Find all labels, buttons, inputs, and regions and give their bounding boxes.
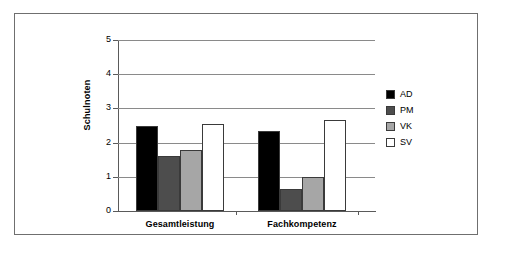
legend-label-sv: SV	[400, 137, 412, 147]
x-tick-mark-1	[236, 211, 237, 215]
y-tick-label-2: 2	[97, 138, 111, 147]
chart-legend: ADPMVKSV	[386, 86, 414, 150]
x-axis-label-1: Gesamtleistung	[120, 218, 240, 230]
gridline-y-4	[118, 74, 375, 75]
legend-item-vk: VK	[386, 118, 414, 134]
legend-item-ad: AD	[386, 86, 414, 102]
bar-vk-2	[302, 177, 324, 211]
legend-item-pm: PM	[386, 102, 414, 118]
legend-swatch-sv	[386, 138, 395, 147]
bar-ad-1	[136, 126, 158, 211]
chart-figure: Schulnoten 012345 ADPMVKSV Gesamtleistun…	[0, 0, 511, 261]
y-tick-label-5: 5	[97, 35, 111, 44]
y-tick-mark-5	[113, 40, 118, 41]
y-tick-mark-0	[113, 211, 118, 212]
bar-pm-2	[280, 189, 302, 211]
legend-label-pm: PM	[400, 105, 414, 115]
y-tick-mark-2	[113, 143, 118, 144]
bar-pm-1	[158, 156, 180, 211]
y-axis-tick-labels: 012345	[95, 0, 111, 261]
gridline-y-0	[118, 211, 375, 212]
x-tick-mark-2	[358, 211, 359, 215]
legend-item-sv: SV	[386, 134, 414, 150]
y-axis-title: Schulnoten	[80, 70, 94, 140]
y-tick-mark-3	[113, 108, 118, 109]
gridline-y-3	[118, 108, 375, 109]
y-tick-label-3: 3	[97, 103, 111, 112]
legend-swatch-ad	[386, 90, 395, 99]
y-tick-label-1: 1	[97, 172, 111, 181]
bar-sv-1	[202, 124, 224, 211]
legend-swatch-vk	[386, 122, 395, 131]
y-tick-label-4: 4	[97, 69, 111, 78]
bar-ad-2	[258, 131, 280, 211]
bar-vk-1	[180, 150, 202, 211]
bar-sv-2	[324, 120, 346, 211]
legend-swatch-pm	[386, 106, 395, 115]
gridline-y-5	[118, 40, 375, 41]
y-tick-label-0: 0	[97, 206, 111, 215]
y-tick-mark-4	[113, 74, 118, 75]
legend-label-ad: AD	[400, 89, 413, 99]
y-tick-mark-1	[113, 177, 118, 178]
x-axis-label-2: Fachkompetenz	[242, 218, 362, 230]
plot-area	[118, 40, 375, 211]
legend-label-vk: VK	[400, 121, 412, 131]
